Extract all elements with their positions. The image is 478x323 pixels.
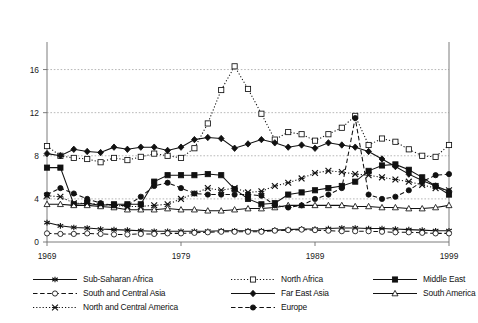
legend-item-south-and-central-asia[interactable]: South and Central Asia [32, 288, 230, 299]
legend-item-label: South and Central Asia [83, 288, 165, 298]
series-marker [84, 148, 90, 154]
legend-item-north-africa[interactable]: North Africa [230, 274, 372, 285]
series-marker [393, 177, 399, 183]
series-marker [44, 165, 49, 170]
axis-ticks [43, 70, 449, 246]
series-marker [178, 155, 183, 160]
series-marker [446, 202, 452, 207]
series-marker [379, 196, 384, 201]
series-marker [205, 172, 210, 177]
legend-item-far-east-asia[interactable]: Far East Asia [230, 288, 372, 299]
series-marker [353, 179, 358, 184]
series-marker [245, 229, 250, 234]
series-marker [446, 231, 451, 236]
legend-item-sub-saharan-africa[interactable]: Sub-Saharan Africa [32, 274, 230, 285]
legend-item-label: Sub-Saharan Africa [83, 274, 153, 284]
series-marker [299, 142, 305, 148]
series-marker [406, 230, 411, 235]
series-marker [111, 203, 116, 208]
legend-item-europe[interactable]: Europe [230, 302, 372, 313]
series-marker [259, 229, 264, 234]
series-marker [205, 230, 210, 235]
series-marker [272, 203, 277, 208]
series-marker [299, 190, 304, 195]
y-tick-label: 4 [34, 194, 39, 204]
series-marker [339, 169, 345, 175]
legend-item-label: Europe [281, 302, 307, 312]
series-marker [326, 186, 331, 191]
series-north-and-central-america [44, 168, 452, 209]
series-marker [379, 136, 384, 141]
series-marker [219, 192, 224, 197]
series-marker [366, 192, 371, 197]
series-marker [138, 144, 144, 150]
series-marker [71, 231, 76, 236]
series-marker [312, 170, 318, 176]
series-marker [245, 86, 250, 91]
series-marker [205, 134, 211, 140]
series-marker [299, 203, 304, 208]
series-marker [138, 231, 143, 236]
series-marker [446, 142, 451, 147]
series-marker [299, 227, 304, 232]
series-marker [232, 145, 238, 151]
legend-item-label: Middle East [423, 274, 465, 284]
series-marker [393, 194, 398, 199]
series-middle-east [44, 162, 451, 208]
series-marker [111, 144, 117, 150]
legend-swatch [32, 274, 78, 285]
series-marker [312, 196, 317, 201]
series-marker [232, 229, 237, 234]
series-marker [218, 135, 224, 141]
series-marker [272, 183, 278, 189]
x-tick-label: 1989 [306, 251, 325, 261]
y-tick-label: 12 [30, 108, 40, 118]
series-marker [58, 231, 63, 236]
series-marker [71, 146, 77, 152]
series-marker [192, 230, 197, 235]
series-marker [326, 192, 331, 197]
series-marker [379, 156, 385, 162]
series-marker [285, 144, 291, 150]
series-marker [85, 231, 90, 236]
series-marker [299, 132, 304, 137]
series-marker [85, 156, 90, 161]
series-marker [98, 149, 104, 155]
series-marker [192, 173, 197, 178]
series-marker [339, 186, 344, 191]
legend-item-label: North and Central America [83, 302, 178, 312]
series-marker [245, 141, 251, 147]
series-marker [178, 196, 184, 202]
series-marker [446, 172, 451, 177]
legend-item-label: Far East Asia [281, 288, 329, 298]
series-marker [245, 192, 250, 197]
y-tick-label: 0 [34, 237, 39, 247]
series-marker [165, 231, 170, 236]
series-marker [165, 147, 171, 153]
series-marker [259, 111, 264, 116]
series-marker [178, 144, 184, 150]
series-marker [138, 194, 143, 199]
legend-item-north-and-central-america[interactable]: North and Central America [32, 302, 230, 313]
series-marker [326, 132, 331, 137]
series-marker [125, 157, 130, 162]
legend-item-middle-east[interactable]: Middle East [372, 274, 478, 285]
legend-swatch [230, 302, 276, 313]
series-marker [98, 231, 103, 236]
series-marker [178, 186, 183, 191]
series-marker [286, 129, 291, 134]
legend-item-south-america[interactable]: South America [372, 288, 478, 299]
series-marker [71, 155, 76, 160]
series-marker [232, 192, 237, 197]
series-marker [44, 231, 49, 236]
series-marker [151, 144, 157, 150]
series-marker [272, 228, 277, 233]
series-marker [219, 229, 224, 234]
x-tick-label: 1979 [172, 251, 191, 261]
series-marker [379, 174, 385, 180]
series-marker [285, 180, 291, 186]
series-marker [379, 229, 384, 234]
data-series-layer [44, 64, 452, 237]
series-marker [71, 191, 76, 196]
series-marker [406, 179, 412, 185]
